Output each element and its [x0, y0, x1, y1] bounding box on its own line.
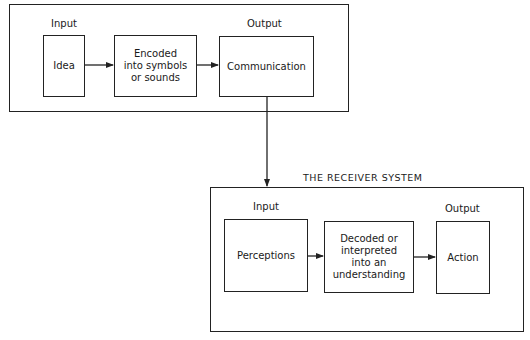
sender-output-label: Output — [247, 18, 282, 29]
receiver-output-label: Output — [445, 203, 480, 214]
sender-input-label: Input — [51, 18, 77, 29]
encoded-text: Encoded into symbols or sounds — [124, 48, 188, 84]
communication-box: Communication — [219, 36, 314, 97]
action-text: Action — [447, 252, 478, 264]
encoded-box: Encoded into symbols or sounds — [114, 35, 197, 97]
communication-text: Communication — [227, 61, 306, 73]
receiver-input-label: Input — [253, 201, 279, 212]
perceptions-text: Perceptions — [237, 250, 295, 262]
receiver-system-title: THE RECEIVER SYSTEM — [303, 172, 423, 183]
decoded-box: Decoded or interpreted into an understan… — [324, 221, 414, 293]
idea-text: Idea — [53, 60, 75, 72]
decoded-text: Decoded or interpreted into an understan… — [333, 233, 406, 281]
perceptions-box: Perceptions — [224, 219, 308, 292]
idea-box: Idea — [43, 35, 85, 97]
action-box: Action — [436, 221, 490, 294]
